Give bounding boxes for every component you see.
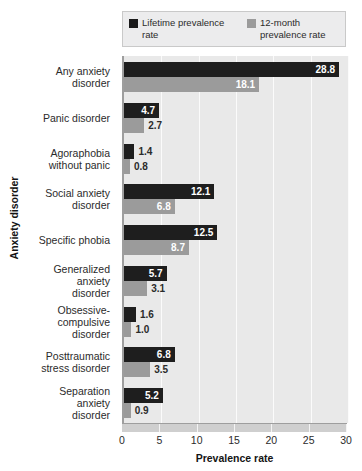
legend-label-twelve-month: 12-month prevalence rate [260,17,325,40]
bar-row: 3.1 [124,281,348,296]
legend-entry-lifetime: Lifetime prevalence rate [129,17,247,40]
bar-row: 0.8 [124,159,348,174]
bar-row: 0.9 [124,403,348,418]
bar-lifetime[interactable] [124,307,136,322]
bar-twelve-month[interactable] [124,362,150,377]
bar-value-label: 0.9 [135,403,149,418]
y-axis-category-labels: Any anxiety disorderPanic disorderAgorap… [0,56,116,423]
bar-row: 1.4 [124,144,348,159]
y-axis-category-label: Posttraumatic stress disorder [0,350,110,374]
x-tick-label: 25 [294,434,324,446]
bar-group: 28.818.1 [124,62,348,92]
bar-twelve-month[interactable] [124,281,147,296]
x-tick-label: 0 [107,434,137,446]
bar-row: 2.7 [124,118,348,133]
chart-legend: Lifetime prevalence rate 12-month preval… [122,11,346,47]
bar-row: 1.6 [124,307,348,322]
x-tick-separator [271,424,272,432]
bar-value-label: 6.8 [149,199,171,214]
bar-value-label: 5.2 [137,388,159,403]
bar-value-label: 12.5 [185,225,213,240]
bar-twelve-month[interactable] [124,322,131,337]
plot-area: 28.818.14.72.71.40.812.16.812.58.75.73.1… [122,56,349,423]
bar-value-label: 12.1 [182,184,210,199]
bar-row: 18.1 [124,77,348,92]
y-axis-category-label: Obsessive- compulsive disorder [0,304,110,340]
bar-row: 6.8 [124,199,348,214]
legend-swatch-lifetime-icon [129,19,138,28]
bar-group: 12.16.8 [124,184,348,214]
bar-value-label: 1.4 [138,144,152,159]
bar-twelve-month[interactable] [124,118,144,133]
x-tick-separator [197,424,198,432]
bar-row: 5.7 [124,266,348,281]
x-tick-label: 20 [256,434,286,446]
legend-label-lifetime: Lifetime prevalence rate [142,17,224,40]
x-tick-label: 5 [144,434,174,446]
x-tick-separator [159,424,160,432]
bar-value-label: 4.7 [133,103,155,118]
legend-swatch-twelve-month-icon [247,19,256,28]
bar-row: 12.5 [124,225,348,240]
bar-row: 3.5 [124,362,348,377]
bar-row: 4.7 [124,103,348,118]
bar-twelve-month[interactable] [124,403,131,418]
x-axis-tick-labels: 051015202530 [0,434,362,448]
bar-value-label: 6.8 [149,347,171,362]
bar-row: 8.7 [124,240,348,255]
bar-value-label: 1.6 [140,307,154,322]
y-axis-category-label: Agoraphobia without panic [0,147,110,171]
bar-twelve-month[interactable] [124,159,130,174]
bar-series-container: 28.818.14.72.71.40.812.16.812.58.75.73.1… [124,56,348,423]
x-tick-label: 30 [331,434,361,446]
bar-group: 6.83.5 [124,347,348,377]
y-axis-category-label: Generalized anxiety disorder [0,263,110,299]
prevalence-bar-chart: Lifetime prevalence rate 12-month preval… [0,0,362,471]
x-axis-title: Prevalence rate [122,452,347,464]
bar-value-label: 5.7 [141,266,163,281]
bar-value-label: 28.8 [307,62,335,77]
bar-group: 1.61.0 [124,307,348,337]
y-axis-category-label: Separation anxiety disorder [0,385,110,421]
bar-group: 12.58.7 [124,225,348,255]
bar-value-label: 1.0 [135,322,149,337]
bar-row: 1.0 [124,322,348,337]
bar-group: 5.20.9 [124,388,348,418]
bar-row: 5.2 [124,388,348,403]
x-tick-separator [234,424,235,432]
bar-value-label: 18.1 [227,77,255,92]
x-tick-separator [309,424,310,432]
bar-group: 1.40.8 [124,144,348,174]
bar-row: 6.8 [124,347,348,362]
y-axis-category-label: Social anxiety disorder [0,187,110,211]
y-axis-category-label: Any anxiety disorder [0,65,110,89]
bar-group: 5.73.1 [124,266,348,296]
x-tick-label: 10 [182,434,212,446]
bar-row: 28.8 [124,62,348,77]
bar-value-label: 3.1 [151,281,165,296]
bar-value-label: 2.7 [148,118,162,133]
bar-value-label: 3.5 [154,362,168,377]
bar-lifetime[interactable] [124,144,134,159]
bar-row: 12.1 [124,184,348,199]
y-axis-category-label: Panic disorder [0,112,110,124]
x-tick-separator [346,424,347,432]
y-axis-category-label: Specific phobia [0,234,110,246]
x-tick-label: 15 [219,434,249,446]
bar-group: 4.72.7 [124,103,348,133]
legend-entry-twelve-month: 12-month prevalence rate [247,17,325,40]
gridline [348,56,349,423]
bar-value-label: 0.8 [134,159,148,174]
bar-value-label: 8.7 [163,240,185,255]
x-axis-line [122,423,347,432]
